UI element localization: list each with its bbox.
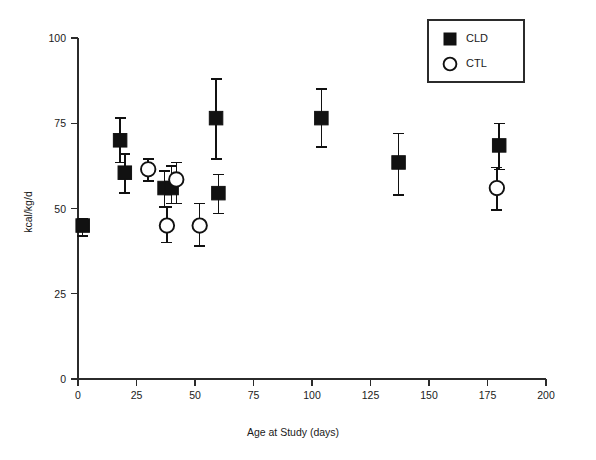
- y-tick-label: 75: [54, 117, 66, 129]
- legend-label: CTL: [466, 57, 487, 69]
- legend-marker-filled-square: [444, 33, 456, 45]
- marker-filled-square: [76, 219, 90, 233]
- marker-filled-square: [315, 111, 329, 125]
- chart-legend: CLDCTL: [428, 20, 524, 82]
- chart-container: 0255075100125150175200 0255075100 Age at…: [0, 0, 596, 460]
- data-point: [392, 133, 406, 194]
- data-point: [492, 123, 506, 169]
- data-point: [490, 168, 504, 211]
- x-tick-label: 100: [303, 389, 321, 401]
- data-point: [192, 203, 206, 246]
- x-tick-label: 25: [131, 389, 143, 401]
- x-tick-label: 50: [189, 389, 201, 401]
- y-tick-label: 25: [54, 288, 66, 300]
- data-series: [76, 79, 506, 246]
- y-axis-title: kcal/kg/d: [22, 191, 34, 233]
- y-tick-label: 0: [60, 373, 66, 385]
- marker-open-circle: [160, 218, 174, 232]
- x-tick-label: 0: [75, 389, 81, 401]
- legend-box: [428, 20, 524, 82]
- marker-open-circle: [169, 172, 183, 186]
- legend-label: CLD: [466, 32, 488, 44]
- data-point: [315, 89, 329, 147]
- marker-filled-square: [113, 134, 127, 148]
- axes: [78, 38, 546, 379]
- legend-marker-open-circle: [444, 58, 457, 71]
- y-tick-label: 50: [54, 203, 66, 215]
- marker-filled-square: [212, 186, 226, 200]
- marker-filled-square: [118, 166, 132, 180]
- x-tick-label: 125: [362, 389, 380, 401]
- x-axis-title: Age at Study (days): [247, 426, 339, 438]
- series-cld: [76, 79, 506, 236]
- data-point: [212, 174, 226, 213]
- y-axis-ticks: 0255075100: [48, 32, 78, 385]
- marker-open-circle: [141, 162, 155, 176]
- data-point: [160, 207, 174, 243]
- x-tick-label: 150: [420, 389, 438, 401]
- marker-filled-square: [492, 139, 506, 153]
- scatter-plot: 0255075100125150175200 0255075100 Age at…: [0, 0, 596, 460]
- marker-filled-square: [392, 156, 406, 170]
- x-tick-label: 75: [248, 389, 260, 401]
- legend-entry: CTL: [444, 57, 487, 70]
- marker-filled-square: [209, 111, 223, 125]
- legend-entry: CLD: [444, 32, 488, 45]
- series-ctl: [141, 159, 504, 246]
- data-point: [141, 159, 155, 181]
- x-axis-ticks: 0255075100125150175200: [75, 379, 555, 401]
- x-tick-label: 200: [537, 389, 555, 401]
- y-tick-label: 100: [48, 32, 66, 44]
- marker-open-circle: [192, 218, 206, 232]
- marker-open-circle: [490, 181, 504, 195]
- x-tick-label: 175: [479, 389, 497, 401]
- data-point: [209, 79, 223, 159]
